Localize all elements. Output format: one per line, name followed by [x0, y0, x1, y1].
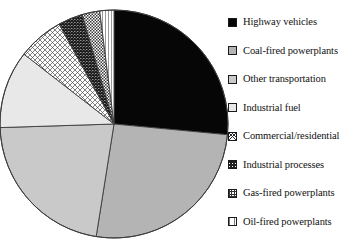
legend-swatch-icon [228, 18, 237, 27]
legend-item-label: Highway vehicles [243, 16, 317, 28]
legend-item[interactable]: Other transportation [228, 65, 358, 94]
legend-swatch-icon [228, 103, 237, 112]
chart-legend: Highway vehicles Coal-fired powerplants … [228, 8, 358, 240]
legend-swatch-icon [228, 160, 237, 169]
legend-item-label: Coal-fired powerplants [243, 45, 338, 57]
legend-item-label: Gas-fired powerplants [243, 187, 335, 199]
legend-item-label: Commercial/residential [243, 130, 339, 142]
legend-swatch-icon [228, 217, 237, 226]
legend-item-label: Other transportation [243, 73, 326, 85]
legend-item[interactable]: Oil-fired powerplants [228, 208, 358, 237]
legend-swatch-icon [228, 75, 237, 84]
pie-slices-group [0, 10, 228, 238]
legend-item[interactable]: Gas-fired powerplants [228, 179, 358, 208]
legend-item-label: Industrial processes [243, 159, 324, 171]
pie-slice[interactable] [0, 124, 114, 237]
legend-swatch-icon [228, 189, 237, 198]
legend-item[interactable]: Highway vehicles [228, 8, 358, 37]
pie-chart-svg [0, 0, 232, 244]
pie-slice[interactable] [114, 10, 228, 135]
legend-item[interactable]: Coal-fired powerplants [228, 37, 358, 66]
legend-item-label: Oil-fired powerplants [243, 216, 332, 228]
legend-item-label: Industrial fuel [243, 102, 301, 114]
legend-swatch-icon [228, 46, 237, 55]
pie-chart-figure: Highway vehicles Coal-fired powerplants … [0, 0, 358, 244]
legend-swatch-icon [228, 132, 237, 141]
pie-chart-plot-area [0, 0, 232, 244]
legend-item[interactable]: Industrial fuel [228, 94, 358, 123]
pie-slice[interactable] [96, 124, 227, 238]
legend-item[interactable]: Commercial/residential [228, 122, 358, 151]
legend-item[interactable]: Industrial processes [228, 151, 358, 180]
